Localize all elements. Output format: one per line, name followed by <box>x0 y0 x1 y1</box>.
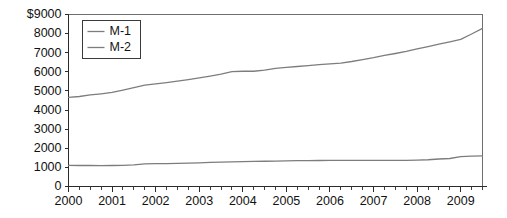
x-axis-ticks <box>69 187 483 193</box>
x-axis-tick-labels: 2000200120022003200420052006200720082009 <box>55 194 475 208</box>
y-axis-tick-label: 4000 <box>34 103 62 117</box>
y-axis-tick-label: 6000 <box>34 65 62 79</box>
y-axis-tick-label: 0 <box>55 179 62 193</box>
x-axis-tick-label: 2003 <box>185 194 213 208</box>
x-axis-tick-label: 2000 <box>55 194 83 208</box>
y-axis-tick-label: 8000 <box>34 26 62 40</box>
x-axis-tick-label: 2004 <box>229 194 257 208</box>
x-axis-tick-label: 2006 <box>316 194 344 208</box>
legend-label-m-2: M-2 <box>110 40 132 54</box>
y-axis-tick-label: 3000 <box>34 122 62 136</box>
x-axis-tick-label: 2008 <box>403 194 431 208</box>
money-supply-line-chart: 010002000300040005000600070008000$9000 2… <box>0 0 507 218</box>
y-axis-ticks <box>65 15 69 187</box>
x-axis-tick-label: 2007 <box>360 194 388 208</box>
x-axis-tick-label: 2001 <box>98 194 126 208</box>
x-axis-tick-label: 2005 <box>272 194 300 208</box>
series-line-m-1 <box>69 156 483 166</box>
y-axis-tick-label: 5000 <box>34 84 62 98</box>
y-axis-tick-label: 1000 <box>34 160 62 174</box>
y-axis-tick-labels: 010002000300040005000600070008000$9000 <box>27 7 62 193</box>
chart-canvas: 010002000300040005000600070008000$9000 2… <box>0 0 507 218</box>
x-axis-tick-label: 2009 <box>447 194 475 208</box>
y-axis-tick-label: 7000 <box>34 46 62 60</box>
legend: M-1 M-2 <box>83 21 141 59</box>
y-axis-tick-label: 2000 <box>34 141 62 155</box>
x-axis-tick-label: 2002 <box>142 194 170 208</box>
legend-label-m-1: M-1 <box>110 24 132 38</box>
y-axis-tick-label: $9000 <box>27 7 62 21</box>
